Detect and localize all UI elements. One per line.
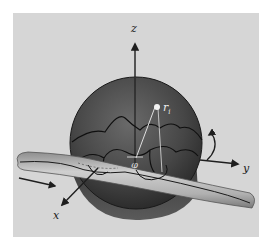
z-axis-label: z bbox=[130, 22, 137, 35]
sphere-filament-diagram: z ri φ y x bbox=[0, 0, 272, 250]
particle-point bbox=[154, 104, 160, 110]
y-axis-label: y bbox=[242, 162, 250, 175]
x-axis-label: x bbox=[53, 209, 60, 222]
